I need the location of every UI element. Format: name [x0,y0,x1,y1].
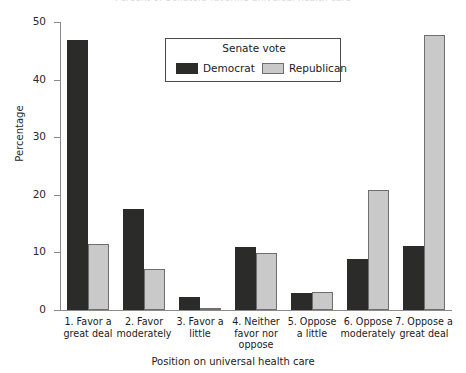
legend-swatch-republican [262,63,284,74]
y-tick-label: 0 [0,303,46,315]
legend-title: Senate vote [166,42,342,54]
legend-label-democrat: Democrat [203,62,255,74]
bar-democrat-6 [347,259,368,310]
bar-republican-4 [256,253,277,310]
y-tick-label: 20 [0,188,46,200]
bar-democrat-4 [235,247,256,310]
chart-title: Percent of Senators favoring universal h… [0,0,466,1]
bar-republican-6 [368,190,389,310]
bar-democrat-1 [67,40,88,310]
bar-republican-2 [144,269,165,310]
bar-republican-1 [88,244,109,310]
bar-democrat-5 [291,293,312,310]
bar-republican-7 [424,35,445,310]
y-axis-title: Percentage [14,79,25,189]
bar-democrat-2 [123,209,144,310]
bar-democrat-7 [403,246,424,311]
legend-swatch-democrat [176,63,198,74]
x-axis-line [60,310,452,311]
legend: Senate vote Democrat Republican [165,38,341,82]
x-axis-title: Position on universal health care [0,356,466,367]
bar-democrat-3 [179,297,200,310]
x-tick-label-7: 7. Oppose a great deal [390,316,458,339]
y-tick-label: 10 [0,245,46,257]
legend-label-republican: Republican [289,62,347,74]
bar-republican-5 [312,292,333,310]
bar-republican-3 [200,308,221,310]
legend-entry-republican: Republican [262,62,347,74]
y-tick-label: 50 [0,15,46,27]
chart-figure: Percent of Senators favoring universal h… [0,0,466,373]
y-tick-mark [54,310,60,311]
legend-entry-democrat: Democrat [176,62,255,74]
